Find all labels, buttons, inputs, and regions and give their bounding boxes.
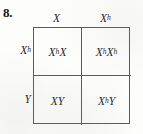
punnett-cell-0-0-allele-2-base: X <box>59 46 66 58</box>
punnett-cell-1-1: XhY <box>82 76 131 125</box>
punnett-cell-1-0: XY <box>34 76 81 125</box>
row-header-1-base: Y <box>25 93 31 105</box>
punnett-cell-0-1: XhXh <box>82 28 131 75</box>
problem-number-label: 8. <box>3 6 12 19</box>
punnett-cell-1-0-allele-2-base: Y <box>58 95 64 107</box>
punnett-cell-1-1-allele-1-base: X <box>98 95 105 107</box>
column-header-1: Xh <box>81 10 130 25</box>
punnett-cell-1-0-allele-1-base: X <box>51 95 58 107</box>
punnett-cell-0-1-allele-1-base: X <box>96 46 103 58</box>
row-header-1: Y <box>4 90 31 108</box>
row-header-0: Xh <box>4 41 31 59</box>
punnett-square-figure: 8. X Xh Xh Y XhX XhXh XY XhY <box>0 0 143 134</box>
column-header-0: X <box>33 10 80 25</box>
punnett-cell-1-1-allele-2-base: Y <box>109 95 115 107</box>
punnett-cell-0-1-allele-2-base: X <box>107 46 114 58</box>
column-header-1-base: X <box>100 12 107 24</box>
column-header-0-base: X <box>53 12 60 24</box>
row-header-0-base: X <box>20 44 27 56</box>
punnett-cell-0-0-allele-1-base: X <box>49 46 56 58</box>
punnett-square-grid: XhX XhXh XY XhY <box>33 27 130 124</box>
punnett-cell-0-0: XhX <box>34 28 81 75</box>
